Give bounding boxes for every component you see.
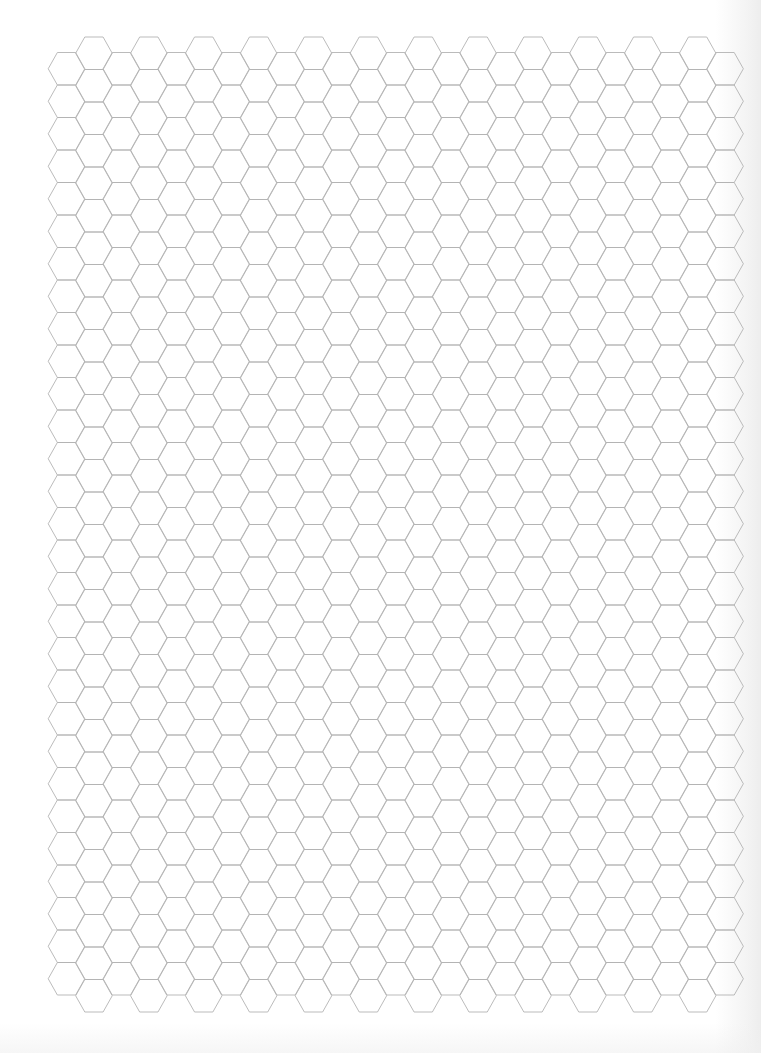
hex-cell bbox=[624, 37, 661, 70]
hex-grid bbox=[0, 0, 761, 1053]
hex-cell bbox=[240, 37, 277, 70]
graph-paper-page bbox=[0, 0, 761, 1053]
hex-cell bbox=[295, 37, 332, 70]
hex-cell bbox=[515, 37, 552, 70]
hex-cell bbox=[405, 37, 442, 70]
hex-cell bbox=[460, 37, 497, 70]
hex-cell bbox=[679, 37, 716, 70]
hex-cell bbox=[185, 37, 222, 70]
hex-cell bbox=[131, 37, 168, 70]
hex-cell bbox=[350, 37, 387, 70]
hex-cell bbox=[76, 37, 113, 70]
hex-cell bbox=[570, 37, 607, 70]
scan-shade bbox=[0, 1023, 761, 1053]
